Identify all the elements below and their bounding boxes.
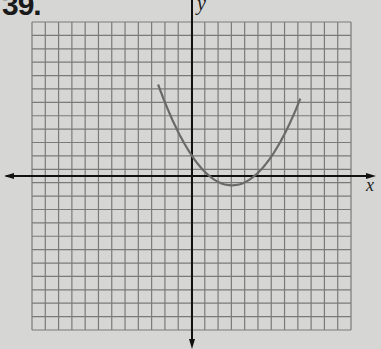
graph-plot — [0, 0, 381, 349]
x-axis-left-arrow-icon — [4, 173, 14, 179]
parabola-curve — [158, 85, 300, 186]
y-axis-down-arrow-icon — [189, 339, 195, 349]
x-axis-right-arrow-icon — [366, 173, 376, 179]
